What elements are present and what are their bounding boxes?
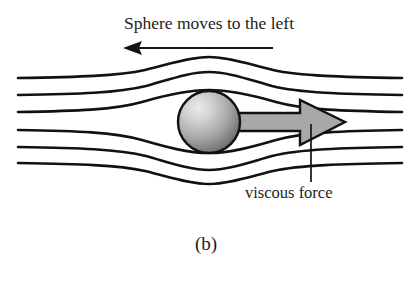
figure-caption: (b) (195, 233, 217, 255)
viscous-force-label: viscous force (245, 183, 333, 202)
sphere (178, 91, 240, 153)
figure-canvas: Sphere moves to the left viscous force (… (0, 0, 420, 282)
figure-viscous-flow-past-sphere: Sphere moves to the left viscous force (… (0, 0, 420, 282)
sphere-body (178, 91, 240, 153)
motion-label: Sphere moves to the left (124, 13, 294, 33)
